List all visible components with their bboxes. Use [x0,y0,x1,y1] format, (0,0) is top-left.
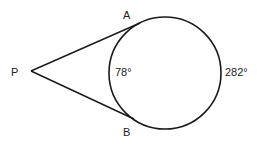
label-major-arc: 282° [225,66,248,78]
tangent-circle-diagram: P A B 78° 282° [0,0,257,144]
label-minor-arc: 78° [115,66,132,78]
tangent-line-pa [31,23,140,71]
tangent-line-pb [31,71,134,119]
label-point-a: A [123,9,131,21]
label-point-b: B [123,126,130,138]
label-point-p: P [11,66,18,78]
